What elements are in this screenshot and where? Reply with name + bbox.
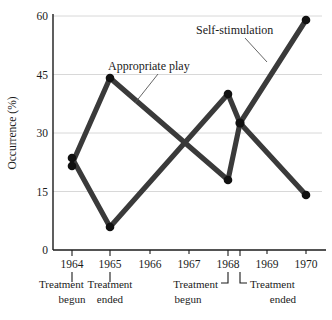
annot-elbow-1968-ended (240, 272, 247, 283)
data-point-1970-low (302, 191, 311, 200)
data-point-1965-low (106, 223, 115, 232)
data-point-1968-high (224, 90, 233, 99)
data-point-1968-low (224, 176, 233, 185)
annot-4-line2: ended (270, 293, 297, 305)
annot-elbow-1968-begun (221, 272, 228, 283)
data-point-1964-b (68, 162, 77, 171)
annotation-labels: Treatment begun Treatment ended Treatmen… (39, 278, 297, 305)
y-tick-labels: 60 45 30 15 0 (37, 10, 49, 256)
data-point-1964-a (68, 154, 77, 163)
data-point-markers (68, 16, 311, 232)
series-line-self-stimulation (72, 94, 306, 227)
data-point-1968-cross (235, 118, 244, 127)
y-axis-title: Occurrence (%) (6, 96, 19, 169)
x-tick-marks (72, 250, 306, 256)
annot-2-line1: Treatment (88, 278, 133, 290)
x-tick-labels: 1964 1965 1966 1967 1968 1969 1970 (61, 258, 318, 270)
chart-container: 60 45 30 15 0 Occurrence (%) 1964 1965 1… (0, 0, 332, 320)
x-tick-label-1965: 1965 (99, 258, 122, 270)
y-tick-label-0: 0 (42, 244, 48, 256)
annot-2-line2: ended (97, 293, 124, 305)
y-tick-label-15: 15 (37, 186, 49, 198)
series-label-appropriate-play: Appropriate play (108, 59, 190, 73)
annot-1-line1: Treatment (39, 278, 84, 290)
leader-line-appropriate-play (135, 74, 158, 103)
leader-line-self-stimulation (245, 38, 267, 62)
series-label-self-stimulation: Self-stimulation (196, 23, 273, 37)
x-tick-label-1969: 1969 (256, 258, 279, 270)
annot-4-line1: Treatment (250, 278, 295, 290)
y-tick-label-45: 45 (37, 69, 49, 81)
x-tick-label-1967: 1967 (178, 258, 201, 270)
annot-3-line1: Treatment (173, 278, 218, 290)
annot-3-line2: begun (175, 293, 202, 305)
x-tick-label-1966: 1966 (139, 258, 162, 270)
x-tick-label-1970: 1970 (295, 258, 318, 270)
occurrence-line-chart: 60 45 30 15 0 Occurrence (%) 1964 1965 1… (0, 0, 332, 320)
data-point-1970-high (302, 16, 311, 25)
y-tick-label-30: 30 (37, 127, 49, 139)
x-tick-label-1968: 1968 (217, 258, 240, 270)
data-point-1965-high (106, 74, 115, 83)
x-tick-label-1964: 1964 (61, 258, 84, 270)
y-tick-label-60: 60 (37, 10, 49, 22)
annot-1-line2: begun (59, 293, 86, 305)
